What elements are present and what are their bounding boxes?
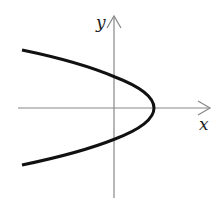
y-axis <box>107 16 121 198</box>
x-axis-label: x <box>199 114 209 134</box>
y-axis-label: y <box>96 12 106 32</box>
parabola-graph <box>0 0 219 198</box>
